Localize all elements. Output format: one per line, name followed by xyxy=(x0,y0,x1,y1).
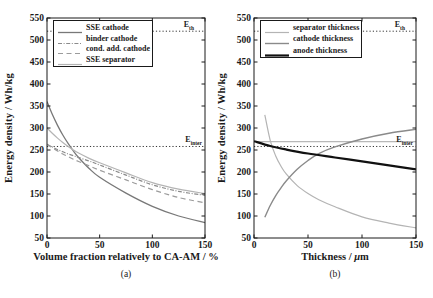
svg-text:300: 300 xyxy=(237,123,252,133)
legend-label: SSE separator xyxy=(86,55,135,64)
svg-text:500: 500 xyxy=(30,35,45,45)
legend-line-sample xyxy=(264,34,290,43)
svg-text:150: 150 xyxy=(237,189,252,199)
figure: 0501001505010015020025030035040045050055… xyxy=(0,0,433,298)
svg-text:300: 300 xyxy=(30,123,45,133)
svg-text:50: 50 xyxy=(35,233,45,243)
x-axis-label-b: Thickness / μm xyxy=(301,251,369,262)
legend-item-cond-add-cathode: cond. add. cathode xyxy=(57,44,149,53)
x-axis-label-b-pre: Thickness / xyxy=(301,251,354,262)
legend-b: separator thickness cathode thickness an… xyxy=(260,20,362,58)
svg-text:0: 0 xyxy=(252,240,257,250)
svg-text:100: 100 xyxy=(30,211,45,221)
svg-text:100: 100 xyxy=(355,240,370,250)
legend-item-anode-thickness: anode thickness xyxy=(264,46,358,55)
svg-text:50: 50 xyxy=(303,240,313,250)
x-axis-label-a: Volume fraction relatively to CA-AM / % xyxy=(33,251,218,262)
legend-a: SSE cathode binder cathode cond. add. ca… xyxy=(53,20,153,67)
legend-item-binder-cathode: binder cathode xyxy=(57,34,149,43)
svg-text:450: 450 xyxy=(30,57,45,67)
svg-text:50: 50 xyxy=(95,240,105,250)
legend-item-sse-cathode: SSE cathode xyxy=(57,23,149,32)
svg-text:100: 100 xyxy=(145,240,160,250)
legend-item-sse-separator: SSE separator xyxy=(57,55,149,64)
legend-line-sample xyxy=(57,23,83,32)
svg-text:50: 50 xyxy=(242,233,252,243)
svg-text:200: 200 xyxy=(237,167,252,177)
svg-text:400: 400 xyxy=(237,79,252,89)
legend-item-separator-thickness: separator thickness xyxy=(264,23,358,32)
svg-text:150: 150 xyxy=(198,240,213,250)
svg-text:550: 550 xyxy=(237,13,252,23)
y-axis-label-a: Energy density / Wh/kg xyxy=(3,73,14,183)
einter-label-b: Einter xyxy=(396,136,413,146)
svg-text:100: 100 xyxy=(237,211,252,221)
legend-label: separator thickness xyxy=(293,23,359,32)
svg-text:350: 350 xyxy=(237,101,252,111)
svg-text:200: 200 xyxy=(30,167,45,177)
legend-line-sample xyxy=(57,34,83,43)
legend-label: anode thickness xyxy=(293,46,347,55)
legend-line-sample xyxy=(57,55,83,64)
legend-label: binder cathode xyxy=(86,34,137,43)
eth-label-a: Eth xyxy=(184,21,194,31)
legend-line-sample xyxy=(57,44,83,53)
svg-text:400: 400 xyxy=(30,79,45,89)
svg-text:250: 250 xyxy=(30,145,45,155)
legend-label: SSE cathode xyxy=(86,23,129,32)
legend-line-sample xyxy=(264,23,290,32)
legend-line-sample xyxy=(264,46,290,55)
svg-text:250: 250 xyxy=(237,145,252,155)
caption-a: (a) xyxy=(121,269,132,279)
y-axis-label-b: Energy density / Wh/kg xyxy=(216,73,227,183)
x-axis-label-b-post: m xyxy=(360,251,369,262)
svg-text:550: 550 xyxy=(30,13,45,23)
legend-label: cathode thickness xyxy=(293,34,353,43)
svg-text:0: 0 xyxy=(45,240,50,250)
caption-b: (b) xyxy=(329,269,340,279)
legend-label: cond. add. cathode xyxy=(86,44,150,53)
einter-label-a: Einter xyxy=(185,136,202,146)
legend-item-cathode-thickness: cathode thickness xyxy=(264,34,358,43)
svg-text:450: 450 xyxy=(237,57,252,67)
eth-label-b: Eth xyxy=(395,21,405,31)
svg-text:150: 150 xyxy=(30,189,45,199)
svg-text:150: 150 xyxy=(409,240,424,250)
svg-text:500: 500 xyxy=(237,35,252,45)
svg-text:350: 350 xyxy=(30,101,45,111)
